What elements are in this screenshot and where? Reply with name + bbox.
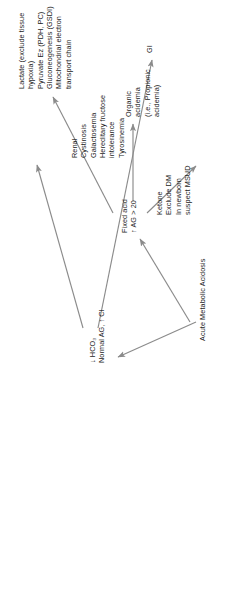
flowchart-canvas: Acute Metabolic Acidosis Fixed acid ↑ AG… <box>0 0 227 613</box>
node-renal-causes: Renal Cystinosis Galactosemia Hereditary… <box>70 95 126 158</box>
node-organic-acidemia: Organic acidemia (i.e., Propionic acidem… <box>124 69 161 117</box>
node-ketone: Ketone Exclude DM In newborn suspect MSU… <box>155 165 192 215</box>
edge-low-hco3-to-renal <box>37 165 83 328</box>
node-lactate: Lactate (exclude tissue hypoxia) Pyruvat… <box>17 6 73 89</box>
node-low-bicarbonate: ↓ HCO₃ Normal AG, ↑ Cl <box>88 310 107 363</box>
flowchart-edges <box>0 0 227 613</box>
edge-root-to-fixed-acid <box>140 239 190 322</box>
node-acute-metabolic-acidosis: Acute Metabolic Acidosis <box>198 259 207 341</box>
node-gi: GI <box>145 45 154 53</box>
node-fixed-acid: Fixed acid ↑ AG > 20 <box>120 199 139 233</box>
edge-root-to-low-hco3 <box>118 322 196 357</box>
